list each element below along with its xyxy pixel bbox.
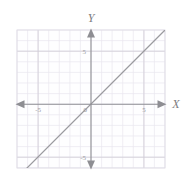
y-tick-label-neg5: -5 [80,154,86,162]
x-tick-label-pos5: 5 [142,106,146,114]
y-axis-label: Y [88,11,96,25]
origin-label: 0 [84,106,88,114]
y-tick-label-pos5: 5 [83,48,87,56]
x-tick-label-neg5: -5 [35,106,41,114]
coordinate-plane-svg: -5 5 5 -5 0 Y X [0,0,186,178]
graph-figure: -5 5 5 -5 0 Y X [0,0,186,178]
x-axis-label: X [171,97,180,111]
